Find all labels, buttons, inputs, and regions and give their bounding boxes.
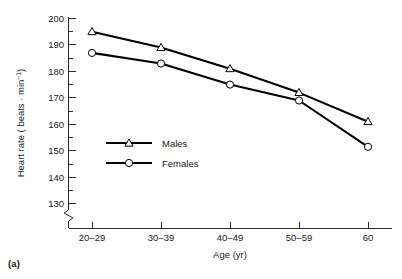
data-point-females-20-29 xyxy=(88,49,95,56)
y-axis-tick-labels: 200 190 180 170 160 150 140 130 xyxy=(48,13,64,209)
data-point-females-30-39 xyxy=(157,60,164,67)
data-point-males-20-29 xyxy=(88,28,96,35)
chart-legend: Males Females xyxy=(106,138,199,169)
legend-label-males: Males xyxy=(162,138,188,149)
y-tick-label: 150 xyxy=(48,145,64,156)
legend-item-females: Females xyxy=(106,158,199,169)
y-tick-label: 190 xyxy=(48,39,64,50)
data-point-females-50-59 xyxy=(295,97,302,104)
y-axis-break-icon xyxy=(64,206,73,228)
y-tick-label: 130 xyxy=(48,198,64,209)
figure-panel-a: 200 190 180 170 160 150 140 130 20–29 30… xyxy=(0,0,402,279)
y-tick-label: 140 xyxy=(48,172,64,183)
x-tick-label: 40–49 xyxy=(217,232,243,243)
y-tick-label: 170 xyxy=(48,92,64,103)
y-axis-minor-ticks xyxy=(69,32,74,191)
series-males-line xyxy=(92,32,368,122)
x-tick-label: 60 xyxy=(363,232,374,243)
y-tick-label: 200 xyxy=(48,13,64,24)
y-axis-title-main: Heart rate ( beats · min xyxy=(15,80,26,178)
circle-marker-icon xyxy=(125,159,132,166)
panel-caption: (a) xyxy=(8,258,20,269)
y-tick-label: 160 xyxy=(48,119,64,130)
y-axis xyxy=(64,17,73,228)
data-point-females-60 xyxy=(364,143,371,150)
x-tick-label: 50–59 xyxy=(286,232,312,243)
data-point-females-40-49 xyxy=(226,81,233,88)
y-tick-label: 180 xyxy=(48,66,64,77)
svg-text:Heart rate ( beats · min−1): Heart rate ( beats · min−1) xyxy=(15,69,27,178)
x-axis-ticks xyxy=(92,222,368,229)
x-tick-label: 20–29 xyxy=(79,232,105,243)
x-axis-title: Age (yr) xyxy=(213,249,247,260)
series-males xyxy=(88,28,372,125)
heart-rate-vs-age-line-chart: 200 190 180 170 160 150 140 130 20–29 30… xyxy=(0,0,402,279)
x-tick-label: 30–39 xyxy=(148,232,174,243)
legend-label-females: Females xyxy=(162,158,199,169)
y-axis-title: Heart rate ( beats · min−1) xyxy=(15,69,27,178)
legend-item-males: Males xyxy=(106,138,188,149)
x-axis-tick-labels: 20–29 30–39 40–49 50–59 60 xyxy=(79,232,374,243)
y-axis-title-close: ) xyxy=(15,69,26,72)
